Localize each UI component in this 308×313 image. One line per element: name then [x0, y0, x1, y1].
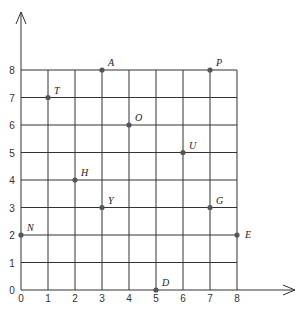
point-label: P [215, 57, 222, 68]
point-marker-icon [234, 232, 239, 237]
point-marker-icon [153, 287, 158, 292]
point-marker-icon [207, 67, 212, 72]
point-label: Y [108, 195, 115, 206]
x-tick-labels: 012345678 [18, 293, 240, 304]
y-tick-label: 1 [9, 258, 15, 269]
y-tick-label: 3 [9, 203, 15, 214]
point-label: E [244, 229, 251, 240]
point-marker-icon [126, 122, 131, 127]
point-label: T [54, 85, 61, 96]
point-marker-icon [99, 205, 104, 210]
y-tick-label: 4 [9, 175, 15, 186]
y-tick-label: 0 [9, 285, 15, 296]
x-tick-label: 7 [207, 293, 213, 304]
y-tick-label: 7 [9, 93, 15, 104]
point-label: D [161, 277, 170, 288]
x-tick-label: 1 [45, 293, 51, 304]
point-label: U [189, 140, 197, 151]
point-label: O [135, 112, 142, 123]
grid-canvas: 012345678 012345678 APTOUHYGNED [0, 0, 308, 313]
point-marker-icon [72, 177, 77, 182]
point-label: N [26, 222, 35, 233]
point-marker-icon [45, 95, 50, 100]
point-marker-icon [99, 67, 104, 72]
point-marker-icon [207, 205, 212, 210]
x-tick-label: 0 [18, 293, 24, 304]
point-marker-icon [180, 150, 185, 155]
point-label: G [216, 195, 223, 206]
x-tick-label: 8 [234, 293, 240, 304]
x-tick-label: 4 [126, 293, 132, 304]
y-tick-label: 2 [9, 230, 15, 241]
grid-lines [21, 70, 237, 290]
y-tick-label: 8 [9, 65, 15, 76]
y-tick-labels: 012345678 [9, 65, 15, 296]
coordinate-grid-diagram: 012345678 012345678 APTOUHYGNED [0, 0, 308, 313]
x-tick-label: 3 [99, 293, 105, 304]
point-marker-icon [18, 232, 23, 237]
x-tick-label: 6 [180, 293, 186, 304]
point-label: H [80, 167, 89, 178]
y-tick-label: 5 [9, 148, 15, 159]
y-tick-label: 6 [9, 120, 15, 131]
point-label: A [107, 57, 115, 68]
x-tick-label: 5 [153, 293, 159, 304]
x-tick-label: 2 [72, 293, 78, 304]
plotted-points: APTOUHYGNED [18, 57, 251, 293]
